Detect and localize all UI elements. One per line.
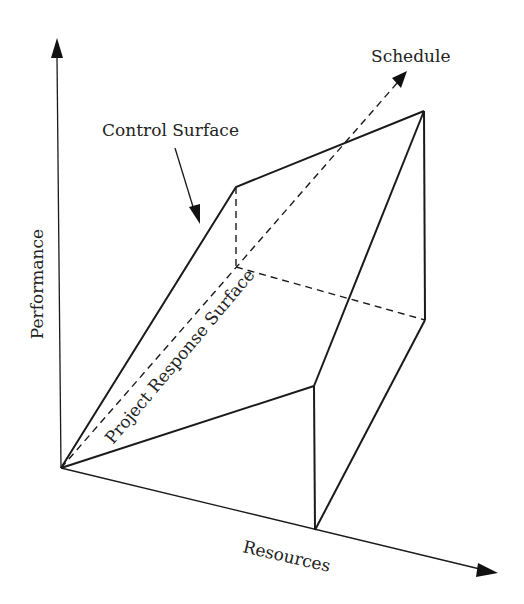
project-surface-diagram: Control Surface Schedule Performance Res… [0,0,524,604]
performance-axis [51,38,63,468]
project-response-surface-label: Project Response Surface [101,265,259,448]
schedule-label: Schedule [371,46,451,66]
callout-arrow-icon [189,204,200,224]
surface-edges [61,111,425,530]
control-surface-label: Control Surface [102,120,239,140]
performance-arrow-icon [51,38,63,58]
control-surface-callout [175,148,200,224]
resources-label: Resources [241,536,332,576]
resources-arrow-icon [476,563,498,577]
hidden-edges [236,187,425,320]
performance-label: Performance [27,229,47,339]
